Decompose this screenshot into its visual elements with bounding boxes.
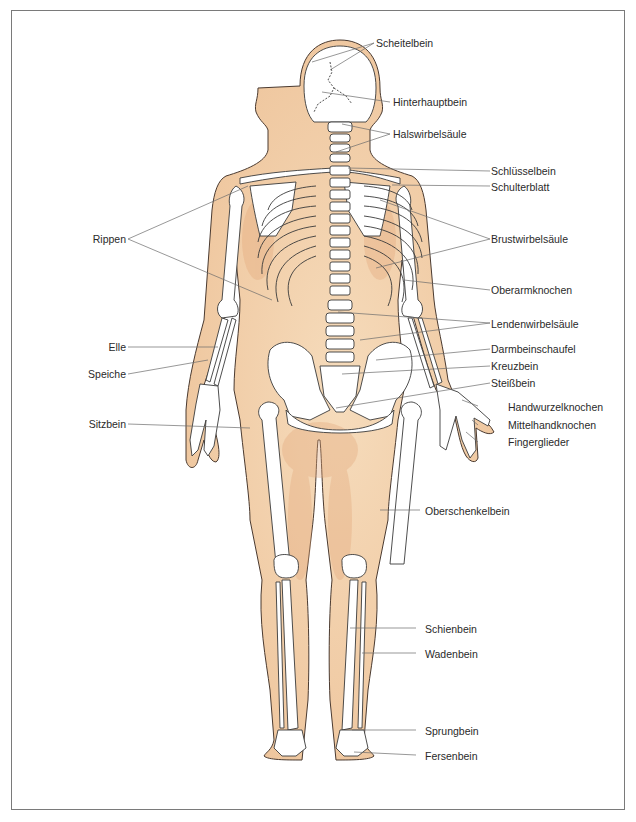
label-scheitelbein: Scheitelbein bbox=[376, 37, 433, 49]
label-darmbeinschaufel: Darmbeinschaufel bbox=[491, 343, 576, 355]
label-oberarmknochen: Oberarmknochen bbox=[491, 284, 572, 296]
label-brustwirbelsaeule: Brustwirbelsäule bbox=[491, 233, 568, 245]
label-schienbein: Schienbein bbox=[425, 623, 477, 635]
label-oberschenkelbein: Oberschenkelbein bbox=[425, 505, 510, 517]
label-schulterblatt: Schulterblatt bbox=[491, 181, 549, 193]
label-sprungbein: Sprungbein bbox=[425, 725, 479, 737]
label-wadenbein: Wadenbein bbox=[425, 648, 478, 660]
label-fersenbein: Fersenbein bbox=[425, 750, 478, 762]
label-handwurzelknochen: Handwurzelknochen bbox=[508, 401, 603, 413]
label-sitzbein: Sitzbein bbox=[60, 418, 126, 430]
label-schluesselbein: Schlüsselbein bbox=[491, 165, 556, 177]
label-fingerglieder: Fingerglieder bbox=[508, 436, 569, 448]
label-elle: Elle bbox=[60, 341, 126, 353]
label-mittelhandknochen: Mittelhandknochen bbox=[508, 419, 596, 431]
label-hinterhauptbein: Hinterhauptbein bbox=[393, 96, 467, 108]
spine bbox=[326, 166, 354, 362]
label-halswirbelsaeule: Halswirbelsäule bbox=[393, 128, 467, 140]
label-rippen: Rippen bbox=[60, 233, 126, 245]
cervical-spine bbox=[328, 122, 352, 162]
label-speiche: Speiche bbox=[60, 368, 126, 380]
label-steissbein: Steißbein bbox=[491, 377, 535, 389]
label-kreuzbein: Kreuzbein bbox=[491, 360, 538, 372]
label-lendenwirbelsaeule: Lendenwirbelsäule bbox=[491, 318, 579, 330]
